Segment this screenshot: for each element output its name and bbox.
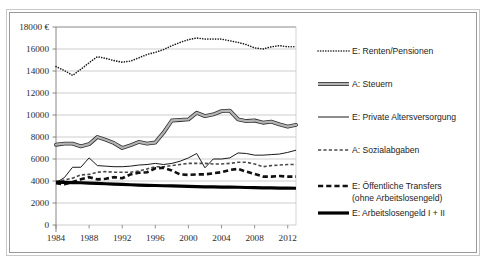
x-tick-label-2012: 2012 xyxy=(279,233,298,243)
x-tick-label-1992: 1992 xyxy=(113,233,132,243)
legend-label-transfers-line2: (ohne Arbeitslosengeld) xyxy=(352,193,442,203)
y-axis-tick-labels: 18000 €160001400012000100008000600040002… xyxy=(19,22,49,230)
legend-label-steuern: A: Steuern xyxy=(352,79,393,89)
y-tick-label-10000: 10000 xyxy=(26,110,49,120)
y-tick-label-12000: 12000 xyxy=(26,88,49,98)
x-tick-label-2008: 2008 xyxy=(245,233,264,243)
plot-area-wrapper: 18000 €160001400012000100008000600040002… xyxy=(0,0,488,264)
series-line-renten xyxy=(56,38,296,75)
x-tick-label-1996: 1996 xyxy=(146,233,165,243)
legend-label-private: E: Private Altersversorgung xyxy=(352,112,456,122)
series-line-arbeitslosengeld xyxy=(56,182,296,188)
chart-legend: E: Renten/PensionenA: SteuernE: Private … xyxy=(318,46,456,218)
legend-label-renten: E: Renten/Pensionen xyxy=(352,46,433,56)
y-tick-label-16000: 16000 xyxy=(26,44,49,54)
y-tick-label-2000: 2000 xyxy=(31,198,50,208)
y-tick-label-8000: 8000 xyxy=(31,132,50,142)
series-line-steuern xyxy=(56,111,296,148)
y-tick-label-18000: 18000 € xyxy=(19,22,49,32)
x-tick-label-1988: 1988 xyxy=(80,233,99,243)
legend-label-transfers: E: Öffentliche Transfers xyxy=(352,181,442,191)
y-tick-label-0: 0 xyxy=(44,220,49,230)
axes-group xyxy=(53,27,297,232)
x-tick-label-2000: 2000 xyxy=(179,233,198,243)
y-tick-label-6000: 6000 xyxy=(31,154,50,164)
x-tick-label-2004: 2004 xyxy=(212,233,231,243)
line-chart-svg: 18000 €160001400012000100008000600040002… xyxy=(0,0,488,264)
x-axis-tick-labels: 19841988199219962000200420082012 xyxy=(47,233,298,243)
chart-figure: 18000 €160001400012000100008000600040002… xyxy=(0,0,488,264)
y-tick-label-4000: 4000 xyxy=(31,176,50,186)
gridlines-group xyxy=(56,27,296,225)
legend-label-arbeitslosengeld: E: Arbeitslosengeld I + II xyxy=(352,208,445,218)
legend-label-sozialabgaben: A: Sozialabgaben xyxy=(352,145,420,155)
x-tick-label-1984: 1984 xyxy=(47,233,66,243)
data-series-group xyxy=(56,38,296,188)
y-tick-label-14000: 14000 xyxy=(26,66,49,76)
